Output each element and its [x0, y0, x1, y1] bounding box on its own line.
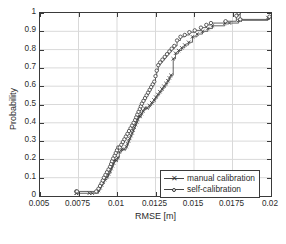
y-tick [267, 141, 271, 142]
legend-marker-x-icon: ✕ [164, 173, 184, 184]
x-tick [271, 192, 272, 196]
y-axis-label: Probability [8, 69, 18, 149]
y-tick-label: 0.5 [25, 99, 36, 109]
x-tick-label: 0.02 [262, 199, 278, 209]
legend-label-self-calibration: self-calibration [187, 184, 241, 195]
legend-label-manual-calibration: manual calibration [187, 173, 255, 184]
x-tick [156, 13, 157, 17]
y-tick [267, 159, 271, 160]
series-manual-calibration [74, 16, 271, 195]
y-tick-label: 0 [31, 190, 36, 200]
y-tick [267, 31, 271, 32]
x-tick-label: 0.015 [183, 199, 204, 209]
x-tick [79, 192, 80, 196]
y-tick [40, 141, 44, 142]
x-axis-label: RMSE [m] [39, 211, 272, 221]
x-tick [194, 13, 195, 17]
y-tick [40, 105, 44, 106]
y-tick [40, 50, 44, 51]
y-tick [40, 123, 44, 124]
y-tick [267, 105, 271, 106]
y-tick-label: 0.4 [25, 117, 36, 127]
figure-cdf-rmse: 0.0050.00750.010.01250.0150.01750.02 00.… [0, 0, 286, 244]
y-tick-label: 0.2 [25, 153, 36, 163]
x-tick-label: 0.0175 [219, 199, 244, 209]
y-tick-label: 0.8 [25, 44, 36, 54]
y-tick [267, 86, 271, 87]
x-tick [271, 13, 272, 17]
legend-item-self-calibration[interactable]: self-calibration [164, 184, 255, 195]
x-tick [117, 13, 118, 17]
x-tick-label: 0.005 [29, 199, 50, 209]
x-tick-label: 0.01 [108, 199, 124, 209]
y-tick-label: 0.1 [25, 172, 36, 182]
y-tick [40, 86, 44, 87]
x-tick-label: 0.0125 [142, 199, 167, 209]
y-tick-label: 1 [31, 7, 36, 17]
series-self-calibration [74, 13, 271, 193]
x-tick [79, 13, 80, 17]
y-tick-label: 0.6 [25, 80, 36, 90]
y-tick [40, 159, 44, 160]
y-tick [40, 31, 44, 32]
y-tick [267, 50, 271, 51]
y-tick [267, 123, 271, 124]
y-tick [40, 68, 44, 69]
legend[interactable]: ✕ manual calibration self-calibration [160, 170, 260, 198]
x-tick [117, 192, 118, 196]
y-tick-label: 0.3 [25, 135, 36, 145]
y-tick-label: 0.9 [25, 25, 36, 35]
legend-marker-circle-icon [164, 184, 184, 195]
data-curves [40, 13, 271, 196]
x-tick-label: 0.0075 [65, 199, 90, 209]
y-tick [267, 178, 271, 179]
y-tick [40, 196, 44, 197]
x-tick [233, 13, 234, 17]
y-tick [267, 68, 271, 69]
y-tick [267, 196, 271, 197]
legend-item-manual-calibration[interactable]: ✕ manual calibration [164, 173, 255, 184]
y-tick [40, 13, 44, 14]
x-tick [156, 192, 157, 196]
y-tick-label: 0.7 [25, 62, 36, 72]
y-tick [40, 178, 44, 179]
y-tick [267, 13, 271, 14]
